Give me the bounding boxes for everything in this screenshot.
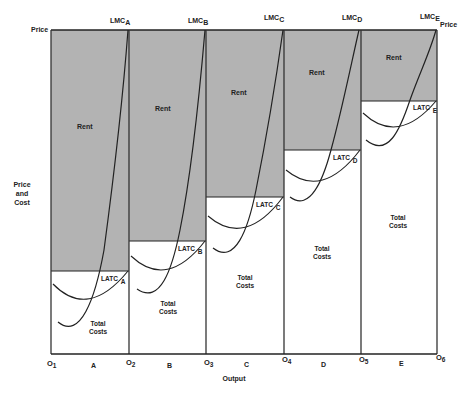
rent-regions <box>51 30 437 271</box>
y-axis-label-line-3: Cost <box>14 199 30 206</box>
total-costs-label-e-2: Costs <box>389 222 407 229</box>
x-tick-o3: O3 <box>204 358 214 368</box>
latc-label-d: LATCD <box>333 154 358 164</box>
y-axis-label-line-2: and <box>16 190 28 197</box>
rent-region-e <box>361 30 437 101</box>
lmc-label-a: LMCA <box>110 17 130 26</box>
latc-label-c: LATCC <box>256 201 281 211</box>
lmc-labels: LMCA LMCB LMCC LMCD LMCE <box>110 13 440 26</box>
lmc-label-b: LMCB <box>188 17 208 26</box>
x-tick-o6: O6 <box>436 353 446 363</box>
region-letter-b: B <box>167 362 172 369</box>
rent-label-b: Rent <box>155 105 171 112</box>
x-tick-o4: O4 <box>282 355 292 365</box>
lmc-label-d: LMCD <box>342 14 362 23</box>
total-costs-label-d-2: Costs <box>313 253 331 260</box>
rent-region-c <box>206 30 284 197</box>
right-price-label: Price <box>440 21 457 28</box>
total-costs-label-e-1: Total <box>390 214 405 221</box>
y-axis-label: Price and Cost <box>13 181 30 206</box>
total-costs-label-b-1: Total <box>160 300 175 307</box>
total-costs-label-d-1: Total <box>314 245 329 252</box>
region-letter-a: A <box>91 362 96 369</box>
lmc-label-c: LMCC <box>264 14 284 23</box>
y-axis-label-line-1: Price <box>13 181 30 188</box>
region-letters: A B C D E <box>91 360 404 369</box>
x-axis-label: Output <box>223 375 247 383</box>
rent-cost-diagram: Price Price Price and Cost LMCA LMCB LMC… <box>0 0 467 395</box>
region-letter-c: C <box>244 361 249 368</box>
lmc-label-e: LMCE <box>420 13 440 22</box>
rent-region-d <box>284 30 361 150</box>
rent-label-e: Rent <box>386 54 402 61</box>
total-costs-label-b-2: Costs <box>159 308 177 315</box>
x-tick-o5: O5 <box>359 355 369 365</box>
rent-label-a: Rent <box>77 123 93 130</box>
region-letter-e: E <box>399 360 404 367</box>
y-axis-top-label: Price <box>31 26 48 33</box>
total-costs-label-a-2: Costs <box>89 328 107 335</box>
total-costs-label-a-1: Total <box>90 320 105 327</box>
total-costs-label-c-2: Costs <box>236 282 254 289</box>
x-tick-o2: O2 <box>126 358 136 368</box>
region-letter-d: D <box>321 361 326 368</box>
x-tick-o1: O1 <box>47 359 57 369</box>
latc-label-a: LATCA <box>101 275 126 285</box>
rent-region-a <box>51 30 129 271</box>
latc-label-b: LATCB <box>178 245 203 255</box>
rent-label-c: Rent <box>231 89 247 96</box>
rent-label-d: Rent <box>309 69 325 76</box>
total-costs-label-c-1: Total <box>237 274 252 281</box>
